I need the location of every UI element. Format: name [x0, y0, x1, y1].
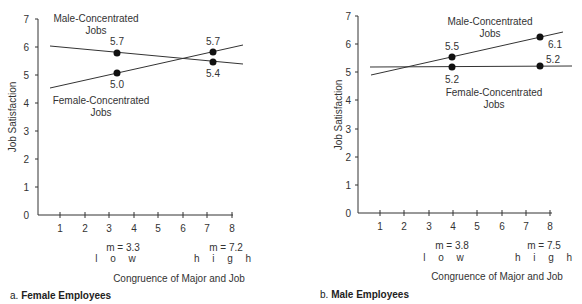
svg-text:0: 0 — [23, 210, 29, 221]
data-point — [114, 50, 121, 57]
low-word: l o w — [95, 253, 141, 264]
data-point — [210, 59, 217, 66]
value-label: 5.5 — [445, 41, 459, 52]
y-axis-label: Job Satisfaction — [333, 80, 344, 151]
low-mean-label: m = 3.8 — [435, 240, 469, 251]
y-axis-label: Job Satisfaction — [7, 82, 18, 153]
high-mean-label: m = 7.5 — [527, 240, 561, 251]
svg-text:6: 6 — [499, 221, 505, 232]
svg-text:0: 0 — [345, 208, 351, 219]
svg-text:8: 8 — [229, 223, 235, 234]
svg-text:3: 3 — [426, 221, 432, 232]
value-label: 6.1 — [548, 39, 562, 50]
svg-text:4: 4 — [450, 221, 456, 232]
svg-text:5: 5 — [345, 67, 351, 78]
series-label-female: Female-Concentrated — [446, 87, 543, 98]
x-axis-label: Congruence of Major and Job — [431, 271, 563, 282]
value-label: 5.7 — [206, 36, 220, 47]
data-point — [114, 70, 121, 77]
data-point — [537, 63, 544, 70]
data-point — [210, 49, 217, 56]
svg-text:6: 6 — [23, 42, 29, 53]
svg-text:5: 5 — [155, 223, 161, 234]
svg-text:5: 5 — [23, 70, 29, 81]
panel-b-letter: b. — [320, 289, 328, 300]
value-label: 5.0 — [110, 79, 124, 90]
svg-text:7: 7 — [23, 14, 29, 25]
svg-text:6: 6 — [180, 223, 186, 234]
series-label-female-line2: Jobs — [90, 107, 111, 118]
panel-b-title: Male Employees — [331, 289, 409, 300]
male-concentrated-line — [371, 32, 563, 75]
svg-text:3: 3 — [106, 223, 112, 234]
svg-text:4: 4 — [23, 98, 29, 109]
svg-text:7: 7 — [523, 221, 529, 232]
svg-text:1: 1 — [377, 221, 383, 232]
value-label: 5.4 — [206, 68, 220, 79]
panel-a-caption: a. Female Employees — [10, 290, 111, 301]
panel-b-caption: b. Male Employees — [320, 289, 409, 300]
panel-a-title: Female Employees — [21, 290, 111, 301]
x-axis-label: Congruence of Major and Job — [113, 273, 245, 284]
svg-text:4: 4 — [131, 223, 137, 234]
svg-text:1: 1 — [23, 182, 29, 193]
low-word: l o w — [423, 252, 469, 263]
series-label-male: Male-Concentrated — [447, 16, 532, 27]
high-word: h i g h — [194, 253, 256, 264]
panel-b-male-employees: 7 6 5 4 3 2 1 0 1 2 3 4 5 6 7 8 Job Sati… — [333, 11, 577, 282]
svg-text:2: 2 — [401, 221, 407, 232]
svg-text:7: 7 — [204, 223, 210, 234]
svg-text:1: 1 — [57, 223, 63, 234]
svg-text:3: 3 — [345, 124, 351, 135]
y-tick-labels: 7 6 5 4 3 2 1 0 — [345, 11, 351, 219]
svg-text:8: 8 — [547, 221, 553, 232]
x-tick-labels: 1 2 3 4 5 6 7 8 — [57, 223, 235, 234]
data-point — [449, 64, 456, 71]
series-label-female: Female-Concentrated — [53, 95, 150, 106]
svg-text:5: 5 — [474, 221, 480, 232]
panel-a-letter: a. — [10, 290, 18, 301]
value-label: 5.2 — [546, 54, 560, 65]
series-label-male: Male-Concentrated — [53, 13, 138, 24]
svg-text:1: 1 — [345, 180, 351, 191]
data-point — [449, 54, 456, 61]
svg-text:4: 4 — [345, 95, 351, 106]
series-label-male-line2: Jobs — [479, 28, 500, 39]
svg-text:6: 6 — [345, 39, 351, 50]
y-tick-labels: 7 6 5 4 3 2 1 0 — [23, 14, 29, 221]
series-label-female-line2: Jobs — [483, 99, 504, 110]
panel-a-female-employees: 7 6 5 4 3 2 1 0 1 2 3 4 5 6 7 8 Job Sati… — [7, 13, 256, 284]
high-word: h i g h — [515, 252, 577, 263]
svg-text:2: 2 — [345, 152, 351, 163]
svg-text:3: 3 — [23, 126, 29, 137]
figure: 7 6 5 4 3 2 1 0 1 2 3 4 5 6 7 8 Job Sati… — [0, 0, 582, 304]
low-mean-label: m = 3.3 — [106, 242, 140, 253]
x-tick-labels: 1 2 3 4 5 6 7 8 — [377, 221, 553, 232]
series-label-male-line2: Jobs — [85, 25, 106, 36]
svg-text:7: 7 — [345, 11, 351, 22]
value-label: 5.7 — [110, 36, 124, 47]
svg-text:2: 2 — [82, 223, 88, 234]
svg-text:2: 2 — [23, 154, 29, 165]
data-point — [537, 34, 544, 41]
value-label: 5.2 — [445, 74, 459, 85]
high-mean-label: m = 7.2 — [209, 242, 243, 253]
